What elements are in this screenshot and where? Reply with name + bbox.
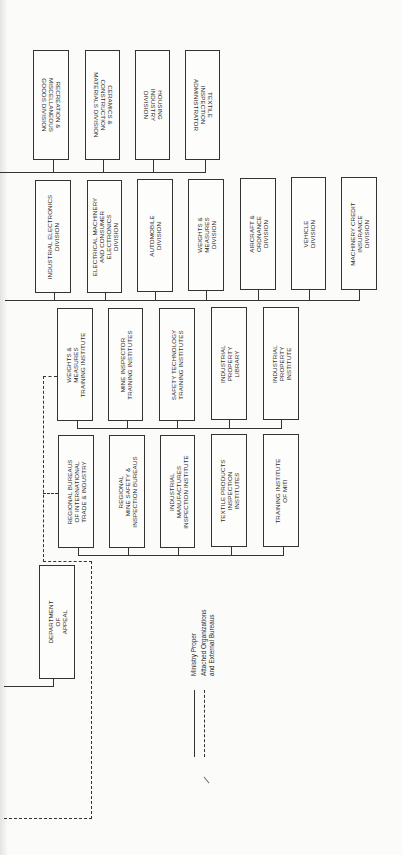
box-weights-measures-training: WEIGHTS & MEASURES TRAINING INSTITUTE [57, 308, 93, 421]
connector [281, 420, 282, 428]
box-electrical-machinery: ELECTRICAL MACHINERY AND CONSUMER ELECTR… [87, 180, 122, 293]
page-edge-shadow [0, 0, 8, 855]
box-label: INDUSTRIAL PROPERTY INSTITUTE [271, 345, 292, 383]
box-label: AUTOMOBILE DIVISION [148, 215, 162, 256]
box-label: INDUSTRIAL PROPERTY LIBRARY [219, 345, 240, 383]
legend-dashed-line [204, 690, 205, 757]
connector [78, 548, 79, 555]
connector [231, 547, 232, 555]
stray-mark [204, 777, 210, 784]
box-label: AIRCRAFT & ORDNANCE DIVISION [248, 215, 269, 253]
legend-attached-organizations: Attached Organizations and External Bure… [200, 610, 215, 676]
connector [178, 548, 179, 555]
box-industrial-property-library: INDUSTRIAL PROPERTY LIBRARY [211, 307, 247, 420]
box-department-of-appeal: DEPARTMENT OF APPEAL [39, 565, 75, 679]
connector [127, 421, 128, 428]
trunk-line [0, 172, 206, 173]
legend-solid-line [194, 690, 195, 757]
box-label: RECREATION & MISCELLANEOUS GOODS DIVISIO… [41, 78, 62, 132]
connector [128, 548, 129, 555]
connector [103, 160, 104, 172]
box-ceramics-division: CERAMICS & CONSTRUCTION MATERIALS DIVISI… [85, 50, 120, 160]
dashed-attachment-line [43, 376, 44, 562]
box-industrial-property-institute: INDUSTRIAL PROPERTY INSTITUTE [263, 307, 299, 420]
box-label: DEPARTMENT OF APPEAL [47, 600, 68, 643]
box-label: HOUSING INDUSTRY DIVISION [142, 89, 163, 121]
connector [359, 290, 360, 300]
trunk-line [4, 686, 54, 687]
box-weights-measures-division: WEIGHTS & MEASURES DIVISION [188, 179, 224, 291]
connector [153, 160, 154, 172]
box-training-institute-miti: TRAINING INSTITUTE OF MITI [263, 434, 299, 547]
box-label: TEXTILE PRODUCTS INSPECTION INSTITUTES [219, 459, 240, 522]
box-label: TRAINING INSTITUTE OF MITI [274, 458, 288, 523]
dashed-attachment-line [43, 493, 58, 494]
box-mine-inspector-training: MINE INSPECTOR TRAINING INSTITUTES [108, 308, 143, 421]
box-textile-inspection: TEXTILE INSPECTION ADMINISTRATOR [185, 50, 220, 160]
box-label: INDUSTRIAL MANUFACTURES INSPECTION INSTI… [167, 455, 188, 529]
box-industrial-electronics: INDUSTRIAL ELECTRONICS DIVISION [35, 180, 71, 293]
connector [177, 421, 178, 428]
dashed-attachment-line [43, 376, 57, 377]
connector [53, 160, 54, 172]
connector [229, 420, 230, 428]
connector [309, 290, 310, 300]
box-label: SAFETY TECHNOLOGY TRAINING INSTITUTES [170, 329, 184, 400]
box-safety-technology-training: SAFETY TECHNOLOGY TRAINING INSTITUTES [159, 308, 195, 421]
connector [77, 421, 78, 428]
box-label: VEHICLE DIVISION [302, 220, 316, 248]
dashed-attachment-line [43, 561, 92, 562]
legend-ministry-proper: Ministry Proper [190, 633, 198, 676]
box-aircraft-ordnance: AIRCRAFT & ORDNANCE DIVISION [240, 178, 276, 290]
connector [258, 290, 259, 300]
box-label: MINE INSPECTOR TRAINING INSTITUTES [119, 330, 133, 399]
box-housing-division: HOUSING INDUSTRY DIVISION [135, 50, 170, 160]
box-label: ELECTRICAL MACHINERY AND CONSUMER ELECTR… [91, 197, 119, 276]
box-label: REGIONAL MINE SAFETY & INSPECTION BUREAU… [117, 456, 138, 527]
box-automobile: AUTOMOBILE DIVISION [137, 179, 173, 292]
box-label: TEXTILE INSPECTION ADMINISTRATOR [192, 79, 213, 131]
box-label: CERAMICS & CONSTRUCTION MATERIALS DIVISI… [92, 72, 113, 137]
connector [205, 160, 206, 172]
box-label: WEIGHTS & MEASURES DIVISION [196, 217, 217, 253]
dashed-attachment-line [4, 818, 92, 819]
box-label: WEIGHTS & MEASURES TRAINING INSTITUTE [65, 332, 86, 397]
box-machinery-credit: MACHINERY CREDIT INSURANCE DIVISION [341, 177, 377, 290]
box-label: REGIONAL BUREAUS OF INTERNATIONAL TRADE … [66, 459, 87, 524]
bracket-line [77, 428, 282, 429]
bracket-line [78, 555, 284, 556]
box-label: INDUSTRIAL ELECTRONICS DIVISION [46, 194, 60, 278]
box-vehicle: VEHICLE DIVISION [291, 177, 326, 290]
box-regional-mine-safety: REGIONAL MINE SAFETY & INSPECTION BUREAU… [109, 435, 145, 548]
dashed-attachment-line [91, 561, 92, 819]
trunk-line [5, 300, 360, 301]
box-industrial-manufactures: INDUSTRIAL MANUFACTURES INSPECTION INSTI… [160, 435, 195, 548]
box-recreation-division: RECREATION & MISCELLANEOUS GOODS DIVISIO… [33, 50, 69, 160]
box-textile-products-inspection: TEXTILE PRODUCTS INSPECTION INSTITUTES [211, 434, 247, 547]
connector [283, 547, 284, 555]
box-regional-bureaus-trade: REGIONAL BUREAUS OF INTERNATIONAL TRADE … [58, 435, 94, 548]
box-label: MACHINERY CREDIT INSURANCE DIVISION [349, 202, 370, 265]
